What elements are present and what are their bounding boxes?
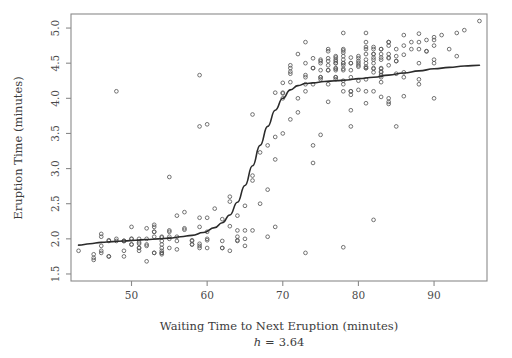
data-point [417,47,421,51]
data-point [228,249,232,253]
data-point [425,38,429,42]
data-point [394,59,398,63]
y-tick-label: 3.5 [49,125,61,142]
data-point [236,214,240,218]
y-axis-title: Eruption Time (minutes) [11,76,25,219]
x-axis-ticks: 5060708090 [125,281,441,301]
data-point [417,40,421,44]
data-point [447,47,451,51]
data-point [425,49,429,53]
smoothing-curve [79,65,480,245]
data-point [440,33,444,37]
data-point [205,216,209,220]
data-point [145,259,149,263]
data-point [304,89,308,93]
data-point [349,61,353,65]
data-point [281,132,285,136]
data-point [372,89,376,93]
data-point [379,80,383,84]
data-point [228,195,232,199]
data-point [311,56,315,60]
data-point [266,144,270,148]
data-point [251,179,255,183]
data-point [228,224,232,228]
bandwidth-symbol: h [254,335,261,349]
bandwidth-equals: = [265,335,275,349]
data-point [326,63,330,67]
data-point [152,251,156,255]
data-point [296,111,300,115]
data-point [273,158,277,162]
data-point [198,73,202,77]
data-point [304,251,308,255]
data-point [289,80,293,84]
data-point [130,243,134,247]
bandwidth-subtitle: h=3.64 [254,335,305,349]
data-point [198,225,202,229]
data-point [258,151,262,155]
data-point [228,200,232,204]
data-point [213,207,217,211]
data-point [357,88,361,92]
data-point [273,225,277,229]
y-tick-label: 3.0 [49,160,61,177]
data-point [326,100,330,104]
data-point [402,53,406,57]
data-point [152,230,156,234]
y-tick-label: 1.5 [49,266,61,283]
data-point [220,217,224,221]
data-point [130,225,134,229]
data-point [122,249,126,253]
data-point [145,226,149,230]
x-tick-label: 80 [352,289,365,301]
data-points [77,19,482,263]
data-point [341,245,345,249]
data-point [387,63,391,67]
data-point [319,133,323,137]
data-point [205,246,209,250]
data-point [198,216,202,220]
data-point [296,52,300,56]
data-point [243,229,247,233]
data-point [251,113,255,117]
data-point [220,239,224,243]
data-point [478,19,482,23]
data-point [402,33,406,37]
data-point [417,82,421,86]
x-tick-label: 90 [427,289,440,301]
data-point [394,125,398,129]
data-point [364,40,368,44]
y-tick-label: 4.0 [49,90,61,107]
y-tick-label: 4.5 [49,55,61,72]
plot-canvas: 5060708090 1.52.02.53.03.54.04.55.0 Wait… [0,0,512,358]
data-point [243,237,247,241]
data-point [311,161,315,165]
data-point [183,210,187,214]
data-point [251,174,255,178]
data-point [243,204,247,208]
eruption-scatter-figure: 5060708090 1.52.02.53.03.54.04.55.0 Wait… [0,0,512,358]
data-point [152,235,156,239]
data-point [167,175,171,179]
data-point [326,68,330,72]
data-point [364,31,368,35]
x-tick-label: 70 [276,289,289,301]
y-tick-label: 5.0 [49,20,61,37]
data-point [372,218,376,222]
data-point [175,248,179,252]
data-point [266,235,270,239]
data-point [99,244,103,248]
data-point [349,125,353,129]
y-tick-label: 2.5 [49,195,61,212]
data-point [77,249,81,253]
x-tick-label: 60 [200,289,213,301]
data-point [304,40,308,44]
data-point [236,229,240,233]
y-axis-ticks: 1.52.02.53.03.54.04.55.0 [49,20,71,283]
data-point [304,61,308,65]
kernel-smoother-line [79,65,480,245]
data-point [417,61,421,65]
data-point [364,52,368,56]
data-point [402,75,406,79]
data-point [296,96,300,100]
